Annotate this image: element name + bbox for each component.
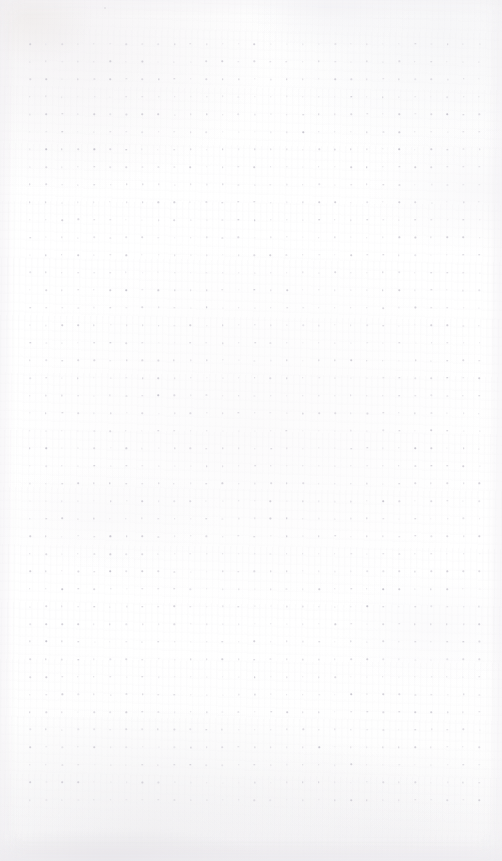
grid-dot: [415, 729, 417, 731]
grid-dot: [478, 360, 480, 362]
grid-dot: [270, 588, 272, 590]
grid-dot: [463, 500, 464, 501]
grid-dot: [382, 96, 383, 97]
grid-dot: [254, 43, 256, 45]
grid-dot: [29, 255, 30, 256]
grid-dot: [174, 342, 175, 343]
grid-dot: [77, 184, 78, 185]
grid-dot: [109, 430, 111, 432]
grid-dot: [286, 483, 288, 485]
grid-dot: [446, 201, 447, 202]
grid-dot: [158, 166, 159, 167]
grid-dot: [382, 201, 383, 202]
grid-dot: [78, 800, 79, 801]
grid-dot: [302, 711, 304, 713]
grid-dot: [29, 588, 31, 590]
grid-dot: [29, 202, 31, 204]
grid-dot: [222, 729, 223, 730]
grid-dot: [382, 430, 384, 432]
grid-dot: [126, 184, 127, 185]
grid-dot: [158, 307, 160, 309]
grid-dot: [254, 500, 255, 501]
grid-dot: [382, 641, 384, 643]
grid-dot: [382, 500, 384, 502]
grid-dot: [125, 483, 127, 485]
grid-dot: [318, 202, 320, 204]
grid-dot: [302, 254, 303, 255]
grid-dot: [61, 96, 63, 98]
grid-dot: [446, 236, 447, 237]
grid-dot: [29, 483, 30, 484]
grid-dot: [367, 254, 368, 255]
grid-dot: [222, 676, 223, 677]
grid-dot: [222, 61, 223, 62]
grid-dot: [109, 290, 110, 291]
grid-dot: [125, 729, 127, 731]
grid-dot: [366, 395, 368, 397]
grid-dot: [302, 482, 304, 484]
grid-dot: [398, 325, 399, 326]
grid-dot: [206, 800, 207, 801]
grid-dot: [174, 782, 175, 783]
grid-dot: [430, 500, 432, 502]
grid-dot: [61, 149, 63, 151]
grid-dot: [366, 518, 367, 519]
grid-dot: [46, 342, 47, 343]
grid-dot: [206, 746, 208, 748]
grid-dot: [302, 96, 303, 97]
grid-dot: [94, 113, 96, 115]
grid-dot: [29, 237, 30, 238]
grid-dot: [366, 184, 368, 186]
grid-dot: [93, 729, 95, 731]
grid-dot: [414, 378, 415, 379]
grid-dot: [415, 571, 416, 572]
grid-dot: [142, 201, 144, 203]
grid-dot: [383, 131, 384, 132]
grid-dot: [126, 166, 127, 167]
grid-dot: [78, 149, 80, 151]
grid-dot: [206, 43, 207, 44]
grid-dot: [238, 746, 239, 747]
grid-dot: [45, 659, 46, 660]
grid-dot: [414, 149, 416, 151]
grid-dot: [382, 799, 383, 800]
grid-dot: [45, 96, 46, 97]
grid-dot: [398, 781, 399, 782]
grid-dot: [61, 430, 62, 431]
grid-dot: [62, 447, 63, 448]
grid-dot: [319, 254, 320, 255]
grid-dot: [366, 79, 367, 80]
grid-dot: [222, 518, 223, 519]
grid-dot: [366, 799, 368, 801]
grid-dot: [222, 202, 223, 203]
grid-dot: [382, 764, 383, 765]
grid-dot: [158, 624, 159, 625]
grid-dot: [222, 237, 223, 238]
grid-dot: [94, 96, 95, 97]
grid-dot: [206, 465, 208, 467]
grid-dot: [350, 799, 352, 801]
grid-dot: [174, 659, 175, 660]
grid-dot: [286, 184, 287, 185]
grid-dot: [318, 307, 320, 309]
grid-dot: [222, 324, 224, 326]
grid-dot: [286, 96, 287, 97]
grid-dot: [366, 113, 367, 114]
grid-dot: [190, 799, 191, 800]
grid-dot: [126, 395, 127, 396]
grid-dot: [61, 799, 62, 800]
grid-dot: [45, 290, 47, 292]
grid-dot: [462, 43, 463, 44]
grid-dot: [141, 518, 142, 519]
grid-dot: [46, 676, 47, 677]
grid-dot: [78, 43, 79, 44]
grid-dot: [94, 307, 95, 308]
grid-dot: [61, 395, 62, 396]
grid-dot: [94, 149, 95, 150]
grid-dot: [126, 43, 128, 45]
grid-dot: [302, 413, 303, 414]
grid-dot: [190, 219, 191, 220]
grid-dot: [286, 747, 287, 748]
grid-dot: [430, 237, 431, 238]
grid-dot: [286, 711, 288, 713]
